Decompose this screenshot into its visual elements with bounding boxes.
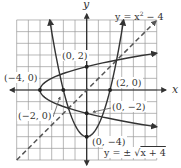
point-label-0-2: (0, 2) (61, 50, 89, 61)
pointer-arrow-0-neg2 (93, 108, 111, 112)
point-label-0-neg4: (0, −4) (91, 136, 127, 147)
point-dot (61, 88, 65, 92)
point-dot (108, 88, 112, 92)
point-label-0-neg2: (0, −2) (111, 101, 147, 112)
point-dot (85, 135, 89, 139)
point-dot (85, 65, 89, 69)
x-axis-label: x (172, 83, 178, 96)
parabola-equation-label: y = x2 − 4 (114, 8, 165, 22)
point-label-2-0: (2, 0) (115, 77, 143, 88)
y-axis-label: y (83, 0, 89, 11)
point-label-neg4-0: (−4, 0) (3, 72, 39, 83)
point-label-neg2-0: (−2, 0) (17, 110, 53, 121)
point-dot (85, 111, 89, 115)
sideways-equation-label: y = ± √x + 4 (103, 147, 167, 158)
point-dot (38, 88, 42, 92)
pointer-arrow-neg2-0 (53, 97, 60, 117)
